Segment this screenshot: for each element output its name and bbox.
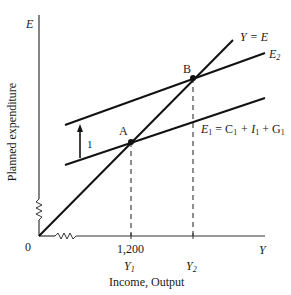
point-a-dot — [128, 139, 134, 145]
y2-subscript: 2 — [193, 265, 197, 274]
e1-eq-i: + I — [237, 122, 255, 136]
e1-eq-c: = C — [212, 122, 233, 136]
x-axis-title: Income, Output — [109, 276, 184, 288]
y1-symbol: Y — [124, 259, 131, 273]
x-tick-y1: Y1 — [124, 260, 135, 276]
x-axis-break-icon — [55, 233, 76, 239]
point-a-label: A — [119, 125, 128, 137]
keynesian-cross-diagram — [0, 0, 291, 295]
label-e1-equation: E1 = C1 + I1 + G1 — [201, 123, 285, 139]
e1-eq-g: + G — [259, 122, 280, 136]
g-subscript: 1 — [281, 128, 285, 137]
e2-subscript: 2 — [276, 53, 280, 62]
label-y-equals-e: Y = E — [240, 31, 268, 43]
x-tick-value-1200: 1,200 — [117, 243, 144, 255]
label-e2: E2 — [269, 48, 280, 64]
shift-arrow-up-icon — [77, 124, 83, 132]
y2-symbol: Y — [186, 259, 193, 273]
shift-arrow-label: 1 — [87, 138, 93, 150]
x-tick-y2: Y2 — [186, 260, 197, 276]
line-e2 — [65, 53, 265, 125]
y-axis-title: Planned expenditure — [5, 83, 20, 181]
y1-subscript: 1 — [131, 265, 135, 274]
y-axis-symbol: E — [26, 18, 33, 30]
y-axis-break-icon — [36, 199, 42, 220]
x-axis-symbol: Y — [259, 244, 266, 256]
point-b-label: B — [183, 63, 191, 75]
origin-label: 0 — [25, 241, 31, 253]
